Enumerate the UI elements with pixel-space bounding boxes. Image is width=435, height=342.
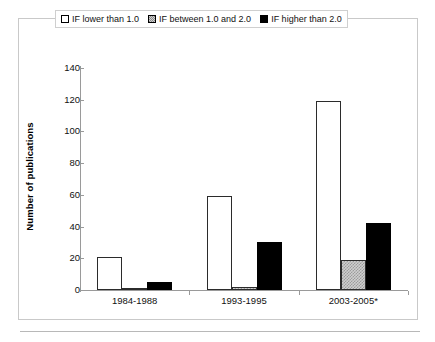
y-tick-label: 120: [54, 95, 80, 105]
chart-legend: IF lower than 1.0 IF between 1.0 and 2.0…: [55, 10, 348, 28]
y-axis-title: Number of publications: [22, 60, 36, 292]
y-axis-tick-labels: 020406080100120140: [48, 0, 80, 342]
legend-swatch-icon-series-3: [260, 15, 268, 23]
bar-3-3: [366, 223, 391, 290]
y-tick-label: 80: [54, 158, 80, 168]
bar-2-2: [232, 287, 257, 290]
legend-swatch-icon-series-2: [148, 15, 156, 23]
y-tick-mark: [80, 195, 84, 196]
y-tick-mark: [80, 163, 84, 164]
chart-figure: IF lower than 1.0 IF between 1.0 and 2.0…: [0, 0, 435, 342]
y-tick-mark: [80, 290, 84, 291]
x-tick-mark: [299, 291, 300, 295]
legend-entry-if-between-1-and-2: IF between 1.0 and 2.0: [148, 15, 251, 24]
bar-1-3: [147, 282, 172, 290]
y-tick-mark: [80, 131, 84, 132]
bar-3-1: [316, 101, 341, 290]
bar-2-1: [207, 196, 232, 290]
y-tick-label: 60: [54, 190, 80, 200]
x-category-label: 1984-1988: [80, 296, 189, 306]
x-tick-mark: [408, 291, 409, 295]
bar-3-2: [341, 260, 366, 290]
y-tick-mark: [80, 100, 84, 101]
y-tick-label: 20: [54, 254, 80, 264]
plot-area: [80, 68, 408, 290]
y-tick-label: 100: [54, 127, 80, 137]
y-tick-mark: [80, 227, 84, 228]
y-tick-label: 0: [54, 285, 80, 295]
y-tick-label: 40: [54, 222, 80, 232]
legend-entry-if-higher-than-2: IF higher than 2.0: [260, 15, 342, 24]
x-tick-mark: [189, 291, 190, 295]
y-axis-title-text: Number of publications: [24, 122, 35, 230]
x-axis-line: [80, 290, 408, 291]
y-tick-mark: [80, 68, 84, 69]
x-category-label: 1993-1995: [189, 296, 298, 306]
legend-label-series-1: IF lower than 1.0: [72, 15, 139, 24]
bar-1-2: [122, 288, 147, 290]
bottom-divider: [20, 331, 420, 332]
bar-2-3: [257, 242, 282, 290]
legend-label-series-3: IF higher than 2.0: [271, 15, 342, 24]
legend-label-series-2: IF between 1.0 and 2.0: [159, 15, 251, 24]
x-category-label: 2003-2005*: [299, 296, 408, 306]
y-tick-mark: [80, 258, 84, 259]
bar-1-1: [97, 257, 122, 290]
y-tick-label: 140: [54, 63, 80, 73]
